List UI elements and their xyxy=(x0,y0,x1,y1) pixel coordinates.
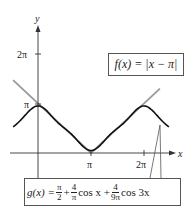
y-tick-label-pi: π xyxy=(24,99,29,110)
frac-numerator: 4 xyxy=(71,183,78,193)
y-axis-arrow-icon xyxy=(36,25,41,32)
frac-denominator: π xyxy=(72,193,77,202)
y-axis-label: y xyxy=(34,13,40,24)
g-frac-4-over-pi: 4 π xyxy=(71,183,78,202)
frac-numerator: π xyxy=(56,183,63,193)
g-callout-leader xyxy=(150,125,161,178)
f-function-formula: f(x) = |x − π| xyxy=(115,57,178,71)
g-formula-lhs: g(x) = xyxy=(27,186,55,198)
g-cos-3x-term: cos 3x xyxy=(121,186,149,198)
g-plus: + xyxy=(63,186,69,198)
x-tick-label-pi: π xyxy=(87,159,92,170)
frac-numerator: 4 xyxy=(112,183,119,193)
frac-denominator: 2 xyxy=(57,193,62,202)
g-cos-x-term: cos x + xyxy=(78,186,110,198)
frac-denominator: 9π xyxy=(111,193,120,202)
y-tick-label-2pi: 2π xyxy=(17,49,27,60)
x-axis-arrow-icon xyxy=(169,151,176,156)
x-tick-label-2pi: 2π xyxy=(136,159,146,170)
g-fourier-curve xyxy=(13,106,169,151)
g-frac-pi-over-2: π 2 xyxy=(56,183,63,202)
g-frac-4-over-9pi: 4 9π xyxy=(111,183,120,202)
x-axis-label: x xyxy=(177,148,183,159)
f-abs-line xyxy=(13,80,160,153)
f-function-label-box: f(x) = |x − π| xyxy=(108,53,184,76)
g-function-label-box: g(x) = π 2 + 4 π cos x + 4 9π cos 3x xyxy=(24,178,181,206)
